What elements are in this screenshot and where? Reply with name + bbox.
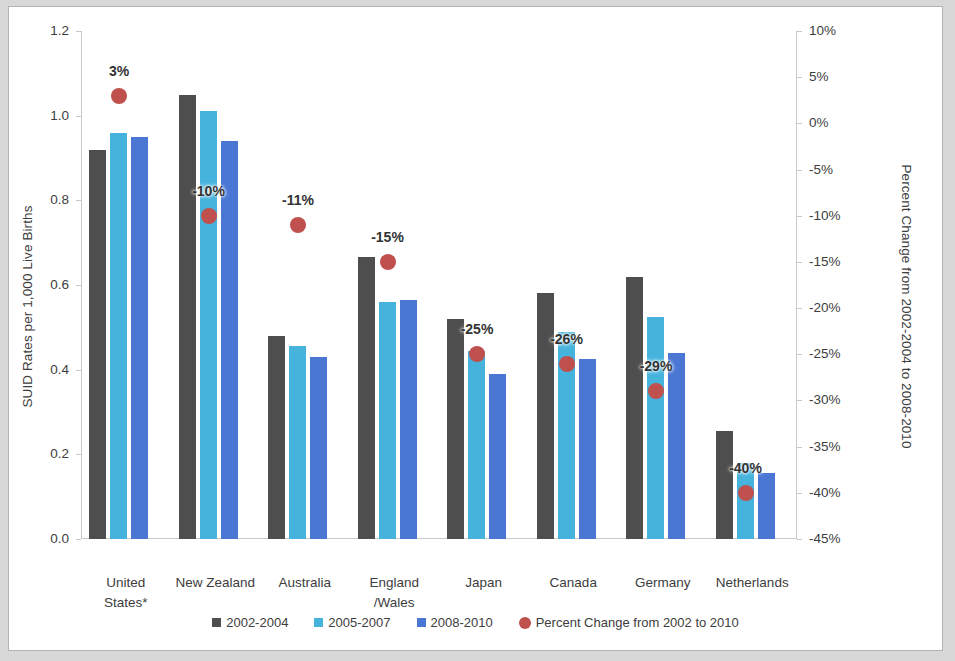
y-tick-label-left: 0.8 [50, 193, 81, 207]
bar [200, 111, 217, 539]
bar [647, 317, 664, 539]
legend-swatch-icon [212, 618, 221, 627]
bar [379, 302, 396, 539]
y-tick-label-left: 1.0 [50, 109, 81, 123]
percent-change-dot [201, 208, 217, 224]
y-axis-title-left: SUID Rates per 1,000 Live Births [20, 157, 35, 457]
y-tick-label-right: 10% [797, 24, 836, 38]
y-tick-label-right: -45% [797, 532, 841, 546]
bar-group [260, 31, 350, 539]
legend-item: 2005-2007 [314, 615, 390, 630]
x-axis-label-line: States* [66, 593, 186, 613]
percent-change-label: -29% [640, 358, 673, 374]
bar [289, 346, 306, 539]
legend-item: 2008-2010 [417, 615, 493, 630]
y-axis-title-right: Percent Change from 2002-2004 to 2008-20… [899, 157, 914, 457]
bar [489, 374, 506, 539]
chart-legend: 2002-20042005-20072008-2010Percent Chang… [9, 615, 942, 630]
y-tick-label-right: -30% [797, 393, 841, 407]
y-tick-label-right: -10% [797, 209, 841, 223]
x-axis-label: Netherlands [692, 573, 812, 593]
bar-group [439, 31, 529, 539]
bar-group [350, 31, 440, 539]
percent-change-label: -11% [282, 192, 314, 208]
y-tick-label-right: -35% [797, 440, 841, 454]
y-tick-label-right: -15% [797, 255, 841, 269]
percent-change-dot [380, 254, 396, 270]
bar [579, 359, 596, 539]
legend-label: 2002-2004 [226, 615, 288, 630]
bar [668, 353, 685, 539]
y-tick-label-left: 0.2 [50, 447, 81, 461]
bar [131, 137, 148, 539]
bar-group [81, 31, 171, 539]
bar [110, 133, 127, 539]
x-axis-label-line: Netherlands [692, 573, 812, 593]
bar [221, 141, 238, 539]
bar [468, 351, 485, 539]
y-tick-label-right: 5% [797, 70, 829, 84]
bar [358, 257, 375, 539]
percent-change-dot [290, 217, 306, 233]
bar [310, 357, 327, 539]
percent-change-label: -40% [729, 460, 762, 476]
bar-group [529, 31, 619, 539]
percent-change-label: 3% [109, 63, 129, 79]
y-tick-label-left: 0.0 [50, 532, 81, 546]
legend-label: 2005-2007 [328, 615, 390, 630]
percent-change-dot [469, 346, 485, 362]
y-tick-label-right: -20% [797, 301, 841, 315]
legend-swatch-icon [417, 618, 426, 627]
y-tick-label-right: -25% [797, 347, 841, 361]
percent-change-label: -25% [461, 321, 494, 337]
percent-change-label: -10% [192, 183, 225, 199]
y-tick-label-right: -40% [797, 486, 841, 500]
legend-label: 2008-2010 [431, 615, 493, 630]
bar [89, 150, 106, 539]
legend-dot-icon [519, 617, 531, 629]
y-tick-label-left: 0.6 [50, 278, 81, 292]
bar [400, 300, 417, 539]
percent-change-dot [559, 356, 575, 372]
legend-swatch-icon [314, 618, 323, 627]
bar [758, 473, 775, 539]
percent-change-label: -15% [371, 229, 404, 245]
bar [268, 336, 285, 539]
x-axis-label-line: /Wales [334, 593, 454, 613]
chart-figure: SUID Rates per 1,000 Live Births Percent… [8, 6, 943, 651]
y-tick-label-right: -5% [797, 163, 833, 177]
y-tick-label-left: 0.4 [50, 363, 81, 377]
y-tick-label-left: 1.2 [50, 24, 81, 38]
percent-change-label: -26% [550, 331, 583, 347]
legend-item: Percent Change from 2002 to 2010 [519, 615, 739, 630]
bar-group [171, 31, 261, 539]
bar [179, 95, 196, 540]
bar-group [618, 31, 708, 539]
plot-area: 0.00.20.40.60.81.01.2 10%5%0%-5%-10%-15%… [81, 31, 797, 539]
percent-change-dot [111, 88, 127, 104]
legend-item: 2002-2004 [212, 615, 288, 630]
bar [447, 319, 464, 539]
percent-change-dot [738, 485, 754, 501]
bar [626, 277, 643, 539]
bar [716, 431, 733, 539]
legend-label: Percent Change from 2002 to 2010 [536, 615, 739, 630]
percent-change-dot [648, 383, 664, 399]
y-tick-label-right: 0% [797, 116, 829, 130]
